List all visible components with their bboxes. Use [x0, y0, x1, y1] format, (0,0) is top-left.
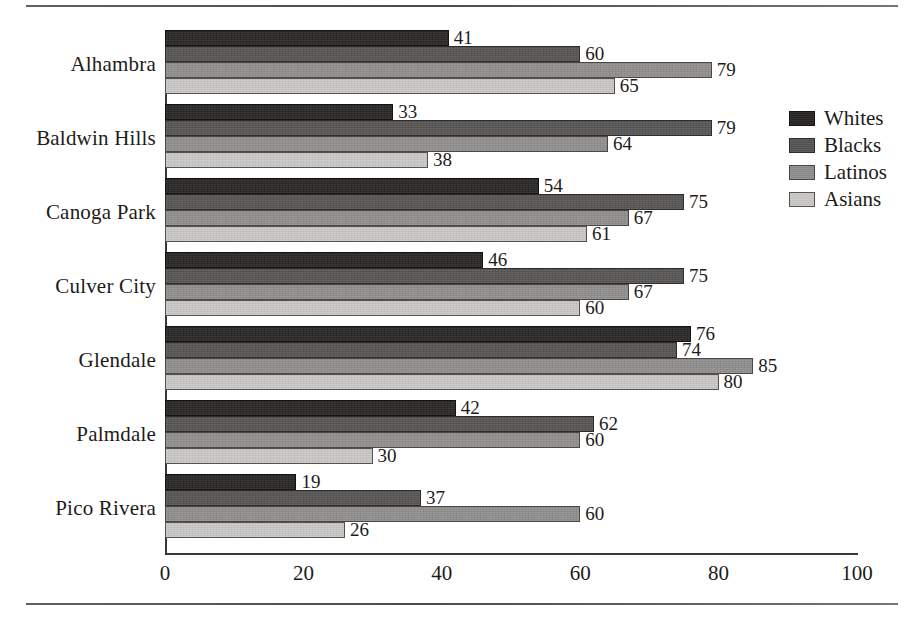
- bar-asians-canoga-park[interactable]: [165, 226, 587, 242]
- legend-swatch-icon: [789, 138, 815, 153]
- bar-value-label: 37: [426, 488, 445, 508]
- category-axis-labels: AlhambraBaldwin HillsCanoga ParkCulver C…: [0, 0, 156, 626]
- category-label-culver-city: Culver City: [8, 276, 156, 297]
- bar-value-label: 79: [717, 60, 736, 80]
- bar-value-label: 42: [461, 398, 480, 418]
- bar-whites-pico-rivera[interactable]: [165, 474, 296, 490]
- bar-blacks-palmdale[interactable]: [165, 416, 594, 432]
- bar-row: 85: [165, 358, 857, 374]
- bar-row: 46: [165, 252, 857, 268]
- bar-row: 76: [165, 326, 857, 342]
- bar-whites-canoga-park[interactable]: [165, 178, 539, 194]
- bar-row: 80: [165, 374, 857, 390]
- bar-value-label: 67: [634, 282, 653, 302]
- legend-label: Asians: [824, 189, 881, 210]
- legend-item-asians[interactable]: Asians: [789, 186, 919, 213]
- bar-value-label: 60: [585, 430, 604, 450]
- category-label-palmdale: Palmdale: [8, 424, 156, 445]
- bar-latinos-pico-rivera[interactable]: [165, 506, 580, 522]
- bar-blacks-culver-city[interactable]: [165, 268, 684, 284]
- x-tick-20: 20: [273, 562, 333, 584]
- legend-label: Whites: [824, 108, 883, 129]
- bar-value-label: 60: [585, 504, 604, 524]
- bar-value-label: 26: [350, 520, 369, 540]
- x-tick-60: 60: [550, 562, 610, 584]
- bar-whites-baldwin-hills[interactable]: [165, 104, 393, 120]
- bar-latinos-glendale[interactable]: [165, 358, 753, 374]
- bar-row: 67: [165, 210, 857, 226]
- bar-asians-palmdale[interactable]: [165, 448, 373, 464]
- bar-latinos-canoga-park[interactable]: [165, 210, 629, 226]
- bar-row: 74: [165, 342, 857, 358]
- legend-item-blacks[interactable]: Blacks: [789, 132, 919, 159]
- bar-latinos-culver-city[interactable]: [165, 284, 629, 300]
- bar-row: 61: [165, 226, 857, 242]
- legend-swatch-icon: [789, 165, 815, 180]
- bar-value-label: 38: [433, 150, 452, 170]
- legend-label: Blacks: [824, 135, 881, 156]
- bar-value-label: 61: [592, 224, 611, 244]
- x-tick-100: 100: [827, 562, 887, 584]
- bar-whites-glendale[interactable]: [165, 326, 691, 342]
- bar-row: 79: [165, 120, 857, 136]
- bar-row: 67: [165, 284, 857, 300]
- legend-label: Latinos: [824, 162, 887, 183]
- x-tick-80: 80: [689, 562, 749, 584]
- bar-row: 54: [165, 178, 857, 194]
- bar-row: 60: [165, 432, 857, 448]
- legend-swatch-icon: [789, 111, 815, 126]
- bar-blacks-canoga-park[interactable]: [165, 194, 684, 210]
- bar-row: 33: [165, 104, 857, 120]
- bar-row: 37: [165, 490, 857, 506]
- bar-row: 65: [165, 78, 857, 94]
- bar-row: 19: [165, 474, 857, 490]
- bar-row: 26: [165, 522, 857, 538]
- bar-asians-pico-rivera[interactable]: [165, 522, 345, 538]
- bar-value-label: 64: [613, 134, 632, 154]
- legend-item-latinos[interactable]: Latinos: [789, 159, 919, 186]
- bar-value-label: 46: [488, 250, 507, 270]
- bar-row: 41: [165, 30, 857, 46]
- bar-value-label: 19: [301, 472, 320, 492]
- bar-blacks-glendale[interactable]: [165, 342, 677, 358]
- category-label-glendale: Glendale: [8, 350, 156, 371]
- bar-value-label: 80: [724, 372, 743, 392]
- bar-whites-palmdale[interactable]: [165, 400, 456, 416]
- bar-value-label: 41: [454, 28, 473, 48]
- bar-latinos-palmdale[interactable]: [165, 432, 580, 448]
- bar-value-label: 54: [544, 176, 563, 196]
- bar-row: 75: [165, 268, 857, 284]
- bar-value-label: 85: [758, 356, 777, 376]
- legend-item-whites[interactable]: Whites: [789, 105, 919, 132]
- bar-row: 64: [165, 136, 857, 152]
- bar-row: 79: [165, 62, 857, 78]
- bar-value-label: 79: [717, 118, 736, 138]
- chart-legend: WhitesBlacksLatinosAsians: [789, 105, 919, 213]
- bar-asians-baldwin-hills[interactable]: [165, 152, 428, 168]
- legend-swatch-icon: [789, 192, 815, 207]
- bar-chart-figure: AlhambraBaldwin HillsCanoga ParkCulver C…: [0, 0, 924, 626]
- category-label-pico-rivera: Pico Rivera: [8, 498, 156, 519]
- bar-blacks-pico-rivera[interactable]: [165, 490, 421, 506]
- bar-row: 60: [165, 506, 857, 522]
- category-label-canoga-park: Canoga Park: [8, 202, 156, 223]
- category-label-baldwin-hills: Baldwin Hills: [8, 128, 156, 149]
- bar-row: 60: [165, 46, 857, 62]
- bar-latinos-baldwin-hills[interactable]: [165, 136, 608, 152]
- bar-value-label: 60: [585, 298, 604, 318]
- bar-asians-culver-city[interactable]: [165, 300, 580, 316]
- bar-value-label: 67: [634, 208, 653, 228]
- bar-whites-culver-city[interactable]: [165, 252, 483, 268]
- bar-whites-alhambra[interactable]: [165, 30, 449, 46]
- bar-value-label: 74: [682, 340, 701, 360]
- bar-blacks-alhambra[interactable]: [165, 46, 580, 62]
- x-tick-40: 40: [412, 562, 472, 584]
- bar-row: 42: [165, 400, 857, 416]
- bar-asians-alhambra[interactable]: [165, 78, 615, 94]
- bar-value-label: 65: [620, 76, 639, 96]
- bar-row: 60: [165, 300, 857, 316]
- bar-row: 75: [165, 194, 857, 210]
- category-label-alhambra: Alhambra: [8, 54, 156, 75]
- bar-value-label: 75: [689, 192, 708, 212]
- bar-asians-glendale[interactable]: [165, 374, 719, 390]
